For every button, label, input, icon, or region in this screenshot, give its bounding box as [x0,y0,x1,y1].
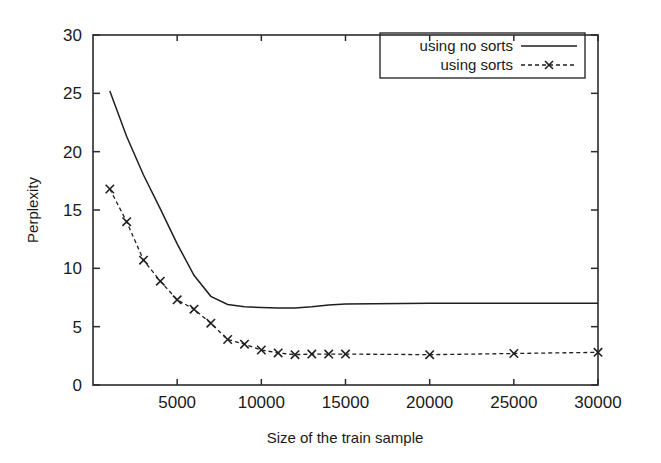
legend-item-label-using-no-sorts: using no sorts [420,37,513,54]
y-tick-label-0: 0 [73,376,82,395]
y-tick-label-5: 5 [73,318,82,337]
y-tick-label-15: 15 [63,201,82,220]
x-tick-label-5000: 5000 [158,393,196,412]
x-axis-title: Size of the train sample [267,429,424,446]
x-tick-label-15000: 15000 [322,393,369,412]
x-tick-label-30000: 30000 [574,393,621,412]
x-tick-label-25000: 25000 [490,393,537,412]
y-tick-label-30: 30 [63,26,82,45]
x-tick-label-10000: 10000 [238,393,285,412]
y-tick-label-25: 25 [63,84,82,103]
x-tick-label-20000: 20000 [406,393,453,412]
perplexity-vs-train-size-chart: 50001000015000200002500030000 0510152025… [0,0,661,463]
legend-item-label-using-sorts: using sorts [440,56,513,73]
y-tick-label-10: 10 [63,259,82,278]
y-axis-title: Perplexity [24,177,41,243]
chart-canvas: 50001000015000200002500030000 0510152025… [0,0,661,463]
y-tick-label-20: 20 [63,143,82,162]
